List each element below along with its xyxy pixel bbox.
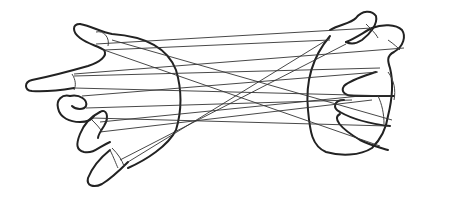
- illustration-canvas: [0, 0, 465, 204]
- cats-cradle-drawing: [0, 0, 465, 204]
- right-hand: [307, 12, 404, 155]
- left-hand: [26, 24, 181, 186]
- string-figure: [74, 28, 404, 162]
